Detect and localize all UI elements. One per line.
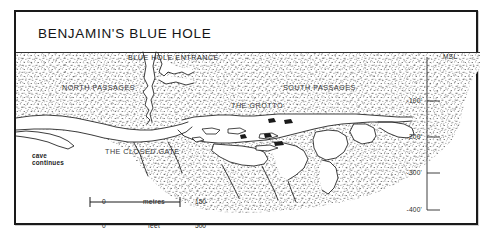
scale-metric-max: 150 (195, 198, 206, 205)
the-grotto-label: THE GROTTO (231, 101, 283, 110)
scale-bar: 0 metres 150 0 feet 500 (102, 198, 206, 233)
scale-metric-unit: metres (102, 198, 206, 205)
map-frame-border: BENJAMIN'S BLUE HOLE BLUE HOLE ENTRANCE … (14, 10, 478, 225)
scale-bar-metric-row: 0 metres 150 (102, 198, 206, 209)
cave-continues-annotation: cave continues (31, 151, 66, 168)
cave-continues-line-1: cave (32, 152, 64, 159)
depth-tick-label-100: -100' (396, 97, 422, 104)
cave-cross-section-figure: BENJAMIN'S BLUE HOLE BLUE HOLE ENTRANCE … (0, 0, 492, 237)
depth-tick-label-400: -400' (396, 206, 422, 213)
depth-tick-label-300: -300' (396, 169, 422, 176)
the-closed-gate-label: THE CLOSED GATE (105, 147, 179, 156)
depth-tick-label-200: -200' (396, 133, 422, 140)
page-title: BENJAMIN'S BLUE HOLE (38, 26, 211, 41)
north-passages-label: NORTH PASSAGES (62, 83, 135, 92)
scale-imperial-unit: feet (102, 222, 206, 229)
blue-hole-entrance-label: BLUE HOLE ENTRANCE (128, 53, 219, 62)
scale-bar-imperial-row: 0 feet 500 (102, 222, 206, 233)
south-passages-label: SOUTH PASSAGES (283, 83, 356, 92)
cave-continues-line-2: continues (32, 159, 64, 166)
cross-section-drawing (16, 12, 480, 227)
mean-sea-level-label: MSL (443, 53, 457, 60)
scale-imperial-max: 500 (195, 222, 206, 229)
